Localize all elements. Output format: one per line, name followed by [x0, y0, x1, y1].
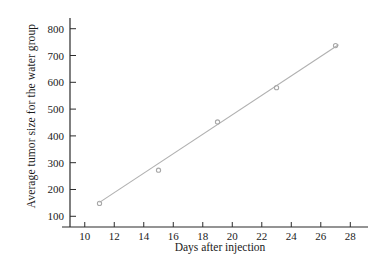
y-axis-ticks [70, 29, 76, 217]
plot-area [0, 0, 378, 261]
data-point-markers [97, 43, 337, 205]
x-axis-ticks [85, 222, 351, 227]
chart-figure: Average tumor size for the water group 1… [0, 0, 378, 261]
